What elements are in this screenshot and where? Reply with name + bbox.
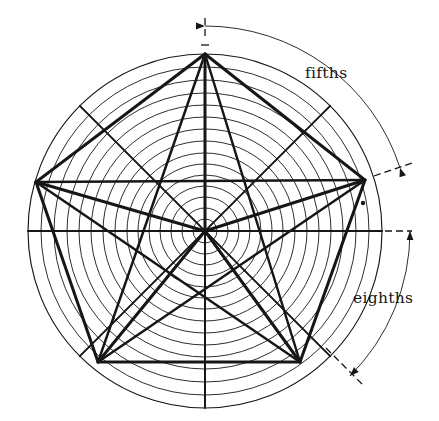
pentagon-chord-3 xyxy=(36,182,300,362)
eighths-lower-right-tick xyxy=(326,348,362,384)
pentagon-chord-5 xyxy=(36,180,365,182)
figure-canvas: fifths eighths xyxy=(0,0,439,421)
fifths-arrow-head-end xyxy=(400,168,406,178)
pentagon-chord-1 xyxy=(205,54,300,362)
eighths-arc xyxy=(350,231,410,376)
marker-dot xyxy=(361,201,365,205)
eighths-arrow-head-start xyxy=(407,231,414,240)
fifths-arrow-head-start xyxy=(196,23,205,30)
fifths-right-tick xyxy=(374,163,412,176)
polar-grid-diagram xyxy=(0,0,439,421)
pentagon-chord-4 xyxy=(98,54,205,362)
